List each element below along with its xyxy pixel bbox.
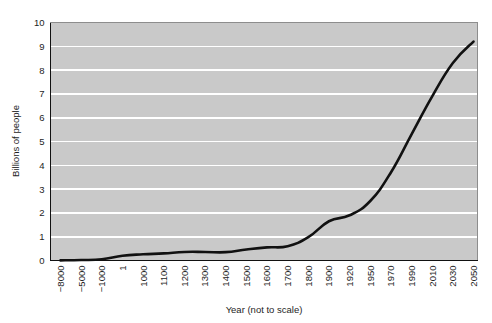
- y-tick-label: 9: [39, 41, 44, 52]
- y-tick-label: 3: [39, 184, 44, 195]
- x-tick-label: −5000: [76, 266, 87, 293]
- chart-canvas: 012345678910 −8000−5000−1000110001100120…: [0, 0, 492, 323]
- x-tick-label: 1600: [261, 266, 272, 287]
- x-axis-title: Year (not to scale): [226, 304, 303, 315]
- x-tick-label: 1400: [220, 266, 231, 287]
- x-tick-label: 2010: [427, 266, 438, 287]
- x-tick-label: 2030: [447, 266, 458, 287]
- x-tick-label: 1100: [158, 266, 169, 286]
- y-tick-label: 7: [39, 88, 44, 99]
- y-tick-label: 8: [39, 65, 44, 76]
- x-tick-label: 1200: [179, 266, 190, 287]
- x-tick-label: 1950: [365, 266, 376, 287]
- y-tick-label: 2: [39, 207, 44, 218]
- x-tick-label: −1000: [96, 266, 107, 293]
- y-tick-label: 10: [34, 17, 45, 28]
- x-tick-label: 1500: [241, 266, 252, 287]
- x-tick-label: 1: [117, 266, 128, 271]
- x-tick-label: 1700: [282, 266, 293, 287]
- y-tick-label: 0: [39, 255, 44, 266]
- x-tick-label: 1990: [406, 266, 417, 287]
- y-tick-label: 6: [39, 112, 44, 123]
- y-tick-label: 4: [39, 160, 44, 171]
- y-tick-label: 5: [39, 136, 44, 147]
- x-tick-label: 1300: [199, 266, 210, 287]
- x-tick-label: 1900: [323, 266, 334, 287]
- x-tick-label: 1970: [385, 266, 396, 287]
- x-tick-label: 2050: [468, 266, 479, 287]
- x-tick-label: 1920: [344, 266, 355, 287]
- y-tick-label: 1: [39, 231, 44, 242]
- x-tick-label: 1800: [303, 266, 314, 287]
- y-axis-title: Billions of people: [10, 105, 21, 177]
- x-tick-label: 1000: [138, 266, 149, 287]
- population-line-chart: 012345678910 −8000−5000−1000110001100120…: [0, 0, 492, 323]
- x-tick-label: −8000: [55, 266, 66, 293]
